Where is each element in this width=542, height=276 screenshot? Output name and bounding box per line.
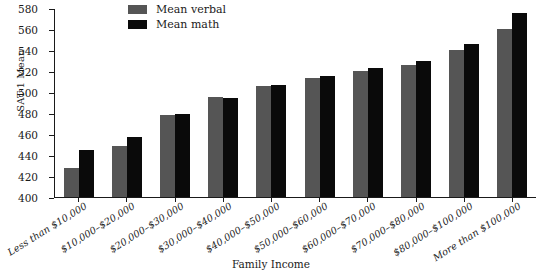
y-axis-tick-label: 580 [18,4,38,15]
y-axis-tick-label: 540 [18,46,38,57]
bar-mean-math [512,13,527,197]
bar-group [488,9,536,197]
bar-group [151,9,199,197]
bar-mean-verbal [160,115,175,197]
bar-mean-math [271,85,286,197]
sat-income-bar-chart: SAT-1 Mean 40042044046048050052054056058… [0,0,542,276]
x-axis-tick-label: More than $100,000 [431,200,523,263]
bar-mean-math [127,137,142,197]
y-axis-tick-label: 560 [18,25,38,36]
x-axis-tick-labels: Less than $10,000$10,000–$20,000$20,000–… [0,196,542,254]
bar-group [440,9,488,197]
bar-mean-verbal [305,78,320,197]
bar-mean-math [320,76,335,197]
bar-mean-math [416,61,431,198]
bar-mean-verbal [112,146,127,197]
bar-group [247,9,295,197]
y-axis-tick-label: 420 [18,172,38,183]
bar-groups [55,9,536,197]
bar-group [344,9,392,197]
bar-mean-verbal [353,71,368,197]
bar-mean-math [464,44,479,197]
bar-mean-math [79,150,94,197]
bar-mean-verbal [401,65,416,197]
bar-mean-math [223,98,238,197]
bar-mean-verbal [64,168,79,197]
plot-area [54,9,536,198]
bar-group [103,9,151,197]
bar-mean-verbal [449,50,464,197]
bar-group [295,9,343,197]
bar-group [392,9,440,197]
bar-mean-verbal [256,86,271,197]
bar-mean-verbal [208,97,223,197]
x-axis-tick-label: Less than $10,000 [6,200,89,258]
y-axis-tick-label: 440 [18,151,38,162]
bar-mean-math [368,68,383,197]
bar-mean-verbal [497,29,512,197]
y-axis-tick-label: 500 [18,88,38,99]
y-axis-tick-label: 460 [18,130,38,141]
x-axis-tick-label: $80,000–$100,000 [391,200,475,258]
bar-group [55,9,103,197]
x-axis-title: Family Income [0,258,542,270]
bar-mean-math [175,114,190,197]
y-axis-tick-label: 480 [18,109,38,120]
bar-group [199,9,247,197]
y-axis-tick-label: 520 [18,67,38,78]
